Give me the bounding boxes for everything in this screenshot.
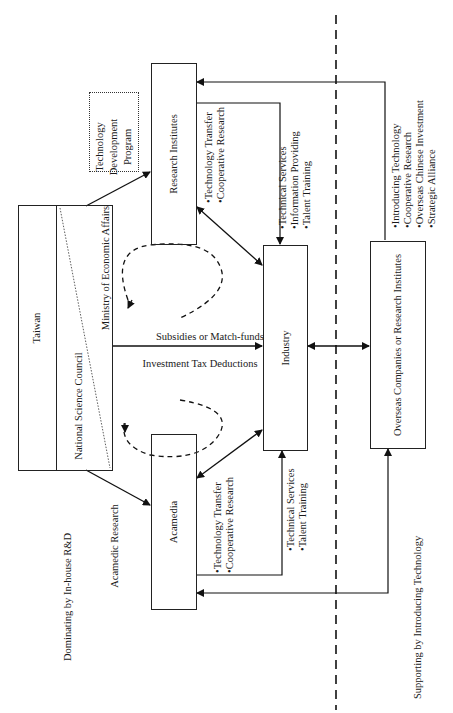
acamedia-label: Acamedia bbox=[168, 482, 180, 562]
acamedic-research-label: Acamedic Research bbox=[109, 496, 121, 596]
tdp-line3: Program bbox=[121, 107, 135, 187]
tdp-label: Technology Development Program bbox=[93, 107, 135, 187]
industry-label: Industry bbox=[280, 308, 292, 388]
right-region-label: Supporting by Introducing Technology bbox=[412, 539, 424, 699]
research-institutes-label: Research Institutes bbox=[168, 94, 180, 214]
industry-to-acamedia-list: •Technical Services •Talent Training bbox=[285, 461, 311, 551]
taiwan-label: Taiwan bbox=[31, 278, 43, 378]
moea-label: Ministry of Economic Affairs bbox=[100, 188, 112, 348]
left-region-label: Dominating by In-house R&D bbox=[62, 532, 74, 662]
overseas-label: Overseas Companies or Research Institute… bbox=[392, 245, 404, 445]
ri-to-industry-list: •Technology Transfer •Cooperative Resear… bbox=[203, 103, 229, 203]
tax-label: Investment Tax Deductions bbox=[120, 358, 280, 370]
tdp-line1: Technology bbox=[93, 107, 107, 187]
subsidies-label: Subsidies or Match-funds bbox=[140, 331, 280, 343]
acamedia-to-industry-list: •Technology Transfer •Cooperative Resear… bbox=[212, 473, 238, 573]
taiwan-divider bbox=[56, 205, 57, 471]
nsc-label: National Science Council bbox=[73, 341, 85, 471]
industry-to-ri-list: •Technical Services •Information Providi… bbox=[277, 119, 315, 229]
overseas-services-list: •Introducing Technology •Cooperative Res… bbox=[390, 88, 440, 228]
tdp-line2: Development bbox=[107, 107, 121, 187]
